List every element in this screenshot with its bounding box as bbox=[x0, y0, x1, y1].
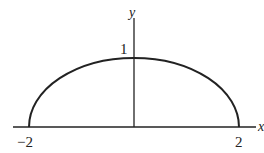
tick-label-y1: 1 bbox=[120, 41, 128, 57]
tick-label-neg2: −2 bbox=[17, 134, 33, 150]
tick-label-pos2: 2 bbox=[235, 134, 243, 150]
ellipse-plot: y x 1 −2 2 bbox=[0, 0, 264, 153]
x-axis-label: x bbox=[257, 119, 264, 134]
y-axis-label: y bbox=[127, 5, 136, 20]
